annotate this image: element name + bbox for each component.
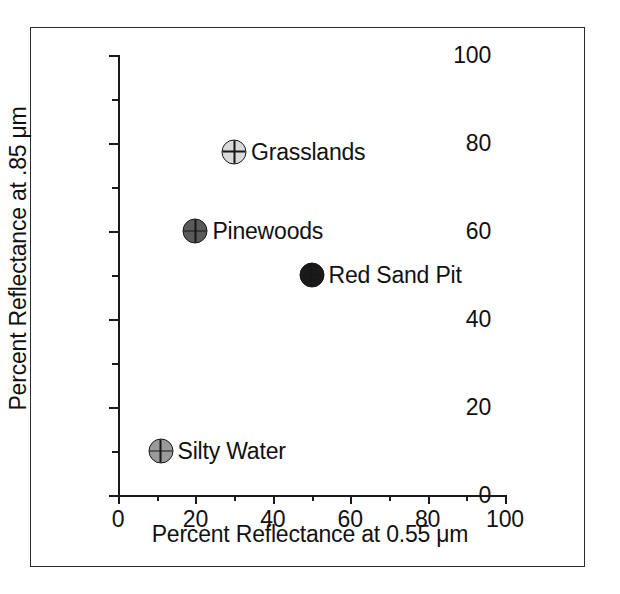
crosshair-circle-icon xyxy=(183,219,208,244)
y-tick-minor xyxy=(112,451,118,453)
x-tick-minor xyxy=(389,495,391,501)
crosshair-vertical xyxy=(195,220,197,243)
y-tick-label: 80 xyxy=(466,132,491,155)
crosshair-vertical xyxy=(311,264,313,287)
y-tick-minor xyxy=(112,363,118,365)
crosshair-circle-icon xyxy=(148,439,173,464)
y-tick-major xyxy=(109,407,118,409)
plot-area: 020406080100 020406080100 GrasslandsPine… xyxy=(118,55,505,495)
x-tick-major xyxy=(350,495,352,504)
x-tick-minor xyxy=(234,495,236,501)
y-tick-major xyxy=(109,495,118,497)
y-tick-major xyxy=(109,319,118,321)
crosshair-vertical xyxy=(233,140,235,163)
x-axis-title: Percent Reflectance at 0.55 μm xyxy=(0,521,620,548)
y-tick-major xyxy=(109,231,118,233)
x-tick-major xyxy=(118,495,120,504)
y-tick-label: 20 xyxy=(466,396,491,419)
y-axis-title: Percent Reflectance at .85 μm xyxy=(5,0,32,539)
x-tick-major xyxy=(273,495,275,504)
y-tick-minor xyxy=(112,187,118,189)
crosshair-vertical xyxy=(160,440,162,463)
x-tick-major xyxy=(195,495,197,504)
data-point-label: Silty Water xyxy=(178,438,286,465)
x-tick-minor xyxy=(466,495,468,501)
y-tick-label: 40 xyxy=(466,308,491,331)
data-point-label: Grasslands xyxy=(251,138,365,165)
y-tick-label: 0 xyxy=(478,484,491,507)
data-point-label: Pinewoods xyxy=(212,218,323,245)
x-tick-major xyxy=(505,495,507,504)
x-tick-minor xyxy=(157,495,159,501)
y-tick-label: 100 xyxy=(453,44,491,67)
y-tick-label: 60 xyxy=(466,220,491,243)
x-tick-minor xyxy=(312,495,314,501)
crosshair-circle-icon xyxy=(299,263,324,288)
crosshair-circle-icon xyxy=(222,139,247,164)
data-point-label: Red Sand Pit xyxy=(329,262,462,289)
y-tick-major xyxy=(109,143,118,145)
y-tick-minor xyxy=(112,275,118,277)
y-tick-minor xyxy=(112,99,118,101)
y-tick-major xyxy=(109,55,118,57)
figure-scatter-plot: 020406080100 020406080100 GrasslandsPine… xyxy=(0,0,620,594)
x-tick-major xyxy=(428,495,430,504)
